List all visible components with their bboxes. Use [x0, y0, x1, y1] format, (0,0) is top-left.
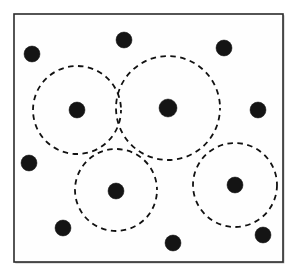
- data-point: [216, 40, 232, 56]
- data-point: [255, 227, 271, 243]
- data-point: [55, 220, 71, 236]
- data-point: [159, 99, 177, 117]
- data-point: [69, 102, 85, 118]
- data-point: [250, 102, 266, 118]
- plot-border: [14, 14, 283, 262]
- data-point: [165, 235, 181, 251]
- figure-root: [0, 0, 297, 275]
- cluster-diagram-svg: [0, 0, 297, 275]
- data-point: [116, 32, 132, 48]
- data-point: [108, 183, 124, 199]
- data-point: [227, 177, 243, 193]
- frame-group: [14, 14, 284, 263]
- data-point: [21, 155, 37, 171]
- data-point: [24, 46, 40, 62]
